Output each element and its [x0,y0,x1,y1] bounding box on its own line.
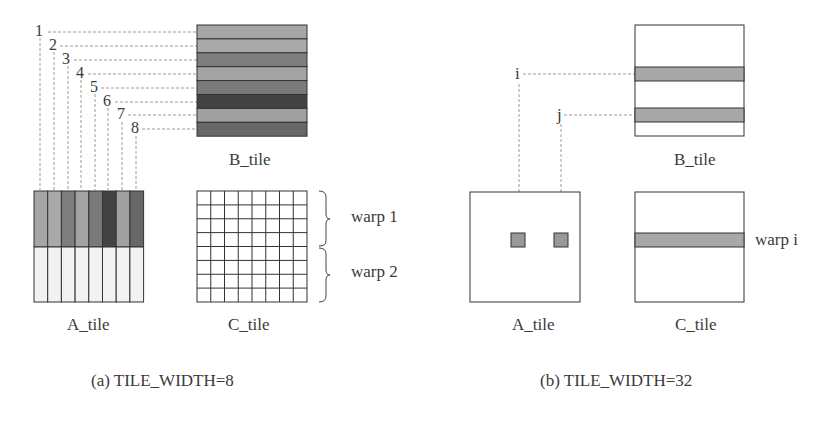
row-number-2: 2 [49,36,57,54]
diagram-canvas [0,0,829,421]
warp-i-label: warp i [755,230,798,250]
panel-b-a-tile [470,192,580,302]
panel-b-leader-lines [519,74,635,192]
panel-b-b-tile-label: B_tile [674,150,716,170]
panel-a-b-tile [197,25,307,136]
row-number-3: 3 [62,50,70,68]
panel-a-a-tile [34,191,144,302]
panel-a-c-tile [197,191,307,302]
index-i-label: i [515,64,520,84]
row-number-1: 1 [35,22,43,40]
index-j-label: j [557,105,562,125]
panel-a-a-tile-label: A_tile [67,315,110,335]
row-number-5: 5 [90,78,98,96]
warp-1-label: warp 1 [351,207,398,227]
panel-b-caption: (b) TILE_WIDTH=32 [540,371,692,391]
panel-a-c-tile-label: C_tile [228,315,270,335]
row-number-6: 6 [103,92,111,110]
panel-b-b-tile [635,25,744,136]
panel-b-c-tile-label: C_tile [675,315,717,335]
panel-a-caption: (a) TILE_WIDTH=8 [91,371,234,391]
warp-braces [319,191,330,302]
panel-a-b-tile-label: B_tile [229,150,271,170]
row-number-7: 7 [117,105,125,123]
row-number-8: 8 [131,119,139,137]
panel-b-a-tile-label: A_tile [512,315,555,335]
warp-2-label: warp 2 [351,262,398,282]
row-number-4: 4 [76,64,84,82]
panel-b-c-tile [635,192,744,302]
